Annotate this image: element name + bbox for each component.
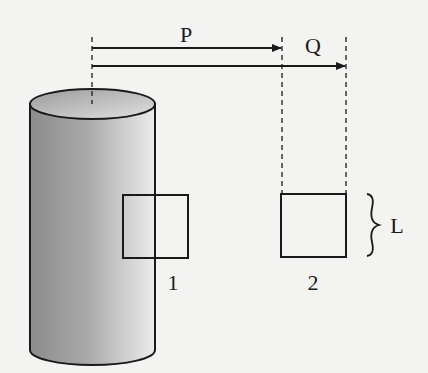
diagram-canvas: P Q 1 2 L xyxy=(0,0,428,373)
curly-brace xyxy=(367,194,379,256)
label-q: Q xyxy=(305,33,321,58)
square-2 xyxy=(281,194,346,257)
label-side-length: L xyxy=(390,213,403,238)
cylinder xyxy=(30,89,155,365)
label-square-2: 2 xyxy=(308,270,319,295)
label-square-1: 1 xyxy=(168,270,179,295)
label-p: P xyxy=(180,22,192,47)
